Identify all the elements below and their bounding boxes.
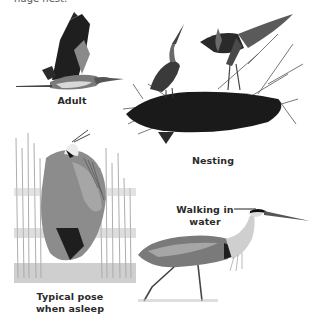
- caption-asleep-line2: when asleep: [30, 303, 110, 315]
- sleeping-heron-illustration: [14, 128, 136, 286]
- caption-asleep-line1: Typical pose: [30, 291, 110, 303]
- caption-adult: Adult: [52, 95, 92, 107]
- caption-walking: Walking in water: [175, 204, 235, 228]
- caption-walking-line2: water: [175, 216, 235, 228]
- adult-heron-illustration: [12, 10, 127, 95]
- top-text-fragment: huge nest.: [14, 0, 67, 4]
- caption-asleep: Typical pose when asleep: [30, 291, 110, 315]
- nesting-illustration: [118, 4, 308, 149]
- caption-nesting: Nesting: [188, 155, 238, 167]
- caption-walking-line1: Walking in: [175, 204, 235, 216]
